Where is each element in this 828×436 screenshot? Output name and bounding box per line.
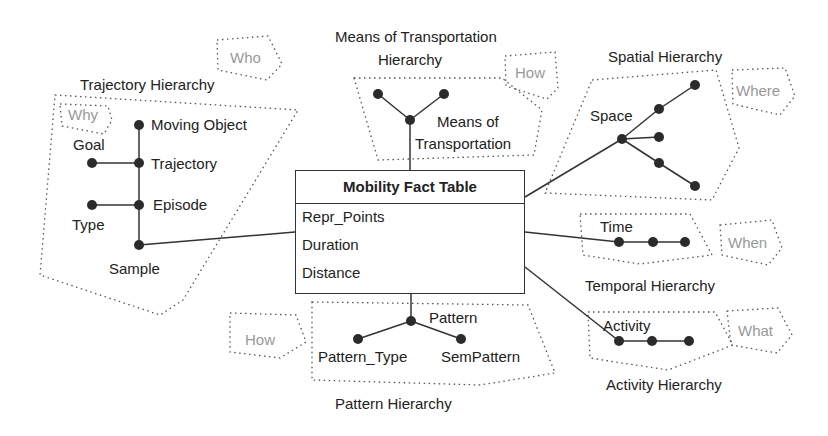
level-moving-object: Moving Object: [151, 116, 247, 134]
measure-distance: Distance: [296, 259, 524, 287]
where-label: Where: [736, 82, 780, 100]
trajectory-hierarchy-title: Trajectory Hierarchy: [80, 75, 214, 95]
how-pattern-label: How: [245, 331, 275, 349]
temporal-hierarchy-title: Temporal Hierarchy: [585, 276, 715, 296]
spatial-hierarchy-title: Spatial Hierarchy: [608, 47, 722, 67]
pattern-hierarchy-title: Pattern Hierarchy: [335, 394, 452, 414]
level-type: Type: [72, 216, 105, 234]
why-label: Why: [68, 106, 98, 124]
level-episode: Episode: [153, 196, 207, 214]
level-activity: Activity: [603, 317, 651, 335]
measure-repr-points: Repr_Points: [296, 203, 524, 231]
level-trajectory: Trajectory: [151, 155, 217, 173]
level-time: Time: [600, 218, 633, 236]
transport-hierarchy-title-2: Hierarchy: [335, 50, 485, 70]
spatial-region: [545, 70, 739, 200]
mobility-fact-table: Mobility Fact Table Repr_Points Duration…: [295, 170, 525, 294]
transport-hierarchy-title-1: Means of Transportation: [335, 27, 485, 47]
measure-duration: Duration: [296, 231, 524, 259]
activity-hierarchy-title: Activity Hierarchy: [606, 375, 722, 395]
level-sempattern: SemPattern: [441, 348, 520, 366]
level-sample: Sample: [109, 260, 160, 278]
who-label: Who: [230, 49, 261, 67]
what-label: What: [738, 322, 773, 340]
how-transport-label: How: [515, 64, 545, 82]
level-means-of-transport-1: Means of: [437, 113, 499, 131]
level-pattern-type: Pattern_Type: [318, 348, 407, 366]
level-goal: Goal: [73, 136, 105, 154]
level-pattern: Pattern: [429, 309, 477, 327]
level-means-of-transport-2: Transportation: [415, 135, 511, 153]
when-label: When: [728, 234, 767, 252]
level-space: Space: [590, 107, 633, 125]
fact-table-title: Mobility Fact Table: [296, 171, 524, 204]
